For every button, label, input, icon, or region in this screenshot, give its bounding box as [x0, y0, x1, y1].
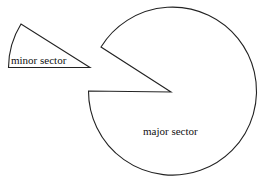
minor-sector-label: minor sector — [11, 54, 67, 66]
major-sector-label: major sector — [143, 125, 198, 137]
sector-diagram: minor sector major sector — [0, 0, 262, 188]
major-sector-shape — [88, 7, 256, 175]
